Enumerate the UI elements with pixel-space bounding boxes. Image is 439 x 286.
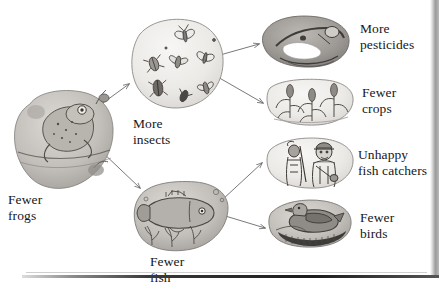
corn-crops-blob-illustration [267, 79, 353, 125]
node-label-frogs: Fewer frogs [8, 192, 42, 223]
node-label-fish-catchers: Unhappy fish catchers [358, 147, 427, 178]
arrow-insects-to-crops [216, 76, 263, 103]
node-label-pesticides: More pesticides [360, 21, 414, 52]
arrow-fish-to-birds [222, 215, 265, 228]
node-label-insects: More insects [133, 116, 170, 147]
page-right-edge-shadow [430, 0, 439, 276]
node-label-crops: Fewer crops [362, 85, 396, 116]
bird-blob-illustration [269, 200, 351, 247]
fish-blob-illustration [134, 182, 228, 251]
page-bottom-rule [22, 275, 439, 278]
arrow-fish-to-fishcatchers [222, 163, 262, 200]
page-bottom-hairline [26, 272, 427, 273]
node-label-birds: Fewer birds [360, 210, 394, 241]
pesticide-sprayer-blob-illustration [262, 16, 349, 67]
node-label-fish: Fewer fish [150, 254, 184, 285]
diagram-page: Fewer frogs More insects Fewer fish More… [0, 0, 439, 286]
frog-blob-illustration [15, 90, 114, 188]
insects-blob-illustration [132, 19, 223, 108]
fish-catchers-blob-illustration [267, 138, 353, 188]
